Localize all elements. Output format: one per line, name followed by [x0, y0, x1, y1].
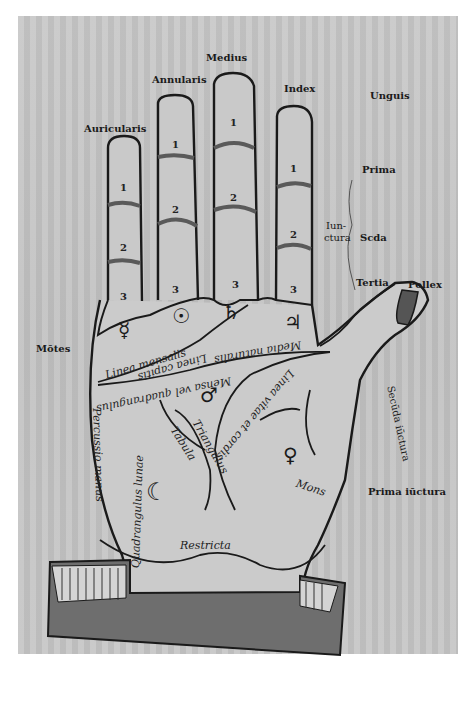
label-annularis: Annularis: [152, 75, 207, 85]
label-prima: Prima: [362, 165, 396, 175]
phalanx-number: 2: [172, 205, 179, 215]
phalanx-number: 3: [172, 285, 179, 295]
label-unguis: Unguis: [370, 91, 410, 101]
phalanx-number: 3: [120, 292, 127, 302]
phalanx-number: 1: [230, 118, 237, 128]
phalanx-number: 3: [290, 285, 297, 295]
venus-symbol-icon: ♀: [283, 445, 298, 465]
label-percussio-manus: Percussio manus: [91, 408, 105, 502]
saturn-symbol-icon: ♄: [222, 302, 240, 322]
phalanx-number: 2: [290, 230, 297, 240]
label-secunda: Scda: [360, 233, 387, 243]
label-iunctura-2: ctura: [324, 233, 351, 243]
phalanx-number: 2: [120, 243, 127, 253]
moon-symbol-icon: ☾: [146, 480, 168, 504]
index-finger-outline: [276, 106, 312, 305]
label-auricularis: Auricularis: [84, 124, 146, 134]
phalanx-number: 2: [230, 193, 237, 203]
label-restricta: Restricta: [180, 540, 231, 551]
ring-finger-outline: [158, 95, 198, 300]
label-iunctura-1: Iun-: [326, 221, 346, 231]
label-pollex: Pollex: [408, 280, 442, 290]
middle-finger-outline: [214, 73, 258, 300]
phalanx-number: 1: [172, 140, 179, 150]
jupiter-symbol-icon: ♃: [284, 312, 302, 332]
sun-symbol-icon: ☉: [172, 306, 190, 326]
label-index: Index: [284, 84, 315, 94]
little-finger-outline: [108, 136, 142, 302]
phalanx-number: 1: [120, 183, 127, 193]
mercury-symbol-icon: ☿: [118, 320, 130, 340]
phalanx-number: 1: [290, 164, 297, 174]
label-medius: Medius: [206, 53, 247, 63]
label-prima-iunctura: Prima iūctura: [368, 487, 446, 497]
label-montes: Mōtes: [36, 344, 70, 354]
label-tertia: Tertia: [356, 278, 389, 288]
phalanx-number: 3: [232, 280, 239, 290]
